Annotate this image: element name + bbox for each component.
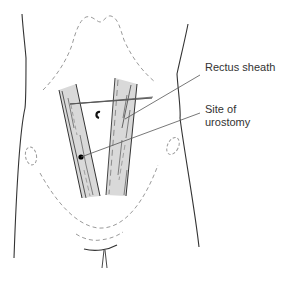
urostomy-site-label-line1: Site of [205,103,236,116]
genital-stem [102,250,107,268]
left-rectus-sheath [59,84,100,198]
left-torso-outline [14,14,26,258]
pubic-arc [76,232,123,240]
rectus-sheath-leader-left-branch [70,97,153,104]
pubic-line [84,245,117,250]
umbilicus-mark [96,112,100,118]
lower-abdomen-arc [40,165,158,228]
urostomy-site-label-line2: urostomy [205,116,250,129]
ribcage-outline [43,16,155,90]
left-hip-marker [24,146,38,166]
abdomen-diagram [0,0,283,282]
right-torso-outline [177,24,199,247]
right-hip-marker [164,136,182,157]
rectus-sheath-leader-right [125,75,200,119]
rectus-sheath-label: Rectus sheath [205,61,275,74]
right-rectus-sheath [106,78,137,196]
